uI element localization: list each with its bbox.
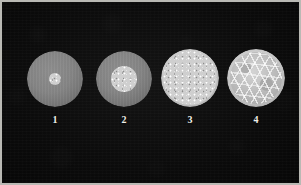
specimen-disc-3	[161, 49, 219, 107]
figure-root: 1234	[0, 0, 301, 185]
specimen-label-2: 2	[121, 115, 126, 125]
disc-core-fine-speckle	[49, 73, 61, 85]
specimen-label-3: 3	[187, 115, 192, 125]
specimen-disc-2	[96, 51, 152, 107]
disc-core-coarse-cellular	[230, 52, 282, 104]
specimen-disc-4	[227, 49, 285, 107]
figure-plate: 1234	[2, 2, 299, 183]
specimen-disc-1	[27, 51, 83, 107]
disc-core-fine-speckle	[111, 66, 137, 92]
disc-core-fine-speckle	[163, 51, 217, 105]
specimen-label-4: 4	[253, 115, 258, 125]
specimen-label-1: 1	[52, 115, 57, 125]
